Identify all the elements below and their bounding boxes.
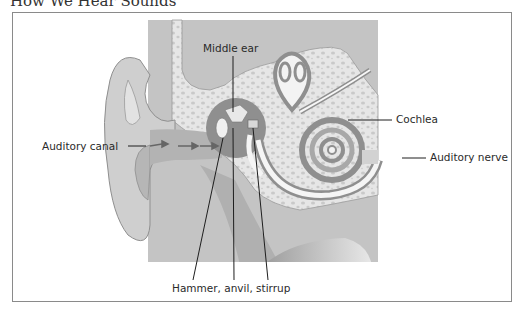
label-auditory-nerve: Auditory nerve bbox=[430, 151, 508, 163]
label-ossicles: Hammer, anvil, stirrup bbox=[172, 282, 290, 294]
auditory-nerve-shape bbox=[362, 150, 378, 164]
label-cochlea: Cochlea bbox=[396, 113, 438, 125]
label-auditory-canal: Auditory canal bbox=[42, 140, 118, 152]
cochlea-spiral bbox=[302, 120, 362, 180]
label-middle-ear: Middle ear bbox=[203, 42, 258, 54]
